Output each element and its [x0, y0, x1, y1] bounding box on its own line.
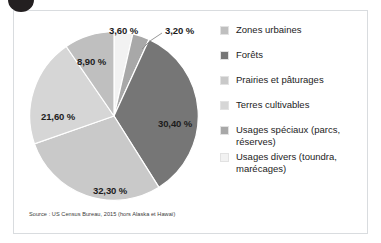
legend-item-prairies[interactable]: Prairies et pâturages [220, 74, 368, 86]
pie-value-label-terres-cultivables: 21,60 % [41, 111, 75, 122]
pie-value-label-forets: 30,40 % [158, 118, 192, 129]
pie-value-label-prairies: 32,30 % [93, 185, 127, 196]
chart-legend: Zones urbaines Forêts Prairies et pâtura… [220, 24, 368, 188]
legend-item-forets[interactable]: Forêts [220, 49, 368, 61]
legend-item-zones-urbaines[interactable]: Zones urbaines [220, 24, 368, 36]
legend-label-terres-cultivables: Terres cultivables [236, 99, 309, 111]
legend-swatch-icon-usages-divers [220, 153, 229, 162]
pie-chart-area: 3,60 % 3,20 % 30,40 % 32,30 % 21,60 % 8,… [14, 11, 229, 233]
legend-label-usages-speciaux: Usages spéciaux (parcs, réserves) [236, 124, 368, 147]
legend-label-usages-divers: Usages divers (toundra, marécages) [236, 151, 368, 174]
legend-swatch-icon-zones-urbaines [220, 26, 229, 35]
figure-root: 3,60 % 3,20 % 30,40 % 32,30 % 21,60 % 8,… [0, 0, 381, 243]
pie-value-label-zones-urbaines: 8,90 % [77, 56, 106, 67]
legend-label-forets: Forêts [236, 49, 263, 61]
legend-label-zones-urbaines: Zones urbaines [236, 24, 301, 36]
legend-item-terres-cultivables[interactable]: Terres cultivables [220, 99, 368, 111]
chart-panel: 3,60 % 3,20 % 30,40 % 32,30 % 21,60 % 8,… [13, 10, 368, 234]
legend-item-usages-divers[interactable]: Usages divers (toundra, marécages) [220, 151, 368, 174]
legend-label-prairies: Prairies et pâturages [236, 74, 324, 86]
legend-swatch-icon-prairies [220, 76, 229, 85]
legend-swatch-icon-terres-cultivables [220, 101, 229, 110]
pie-value-label-usages-divers: 3,60 % [109, 25, 138, 36]
legend-swatch-icon-usages-speciaux [220, 126, 229, 135]
legend-item-usages-speciaux[interactable]: Usages spéciaux (parcs, réserves) [220, 124, 368, 147]
source-note: Source : US Census Bureau, 2015 (hors Al… [29, 211, 175, 217]
pie-value-label-usages-speciaux: 3,20 % [165, 25, 194, 36]
legend-swatch-icon-forets [220, 51, 229, 60]
